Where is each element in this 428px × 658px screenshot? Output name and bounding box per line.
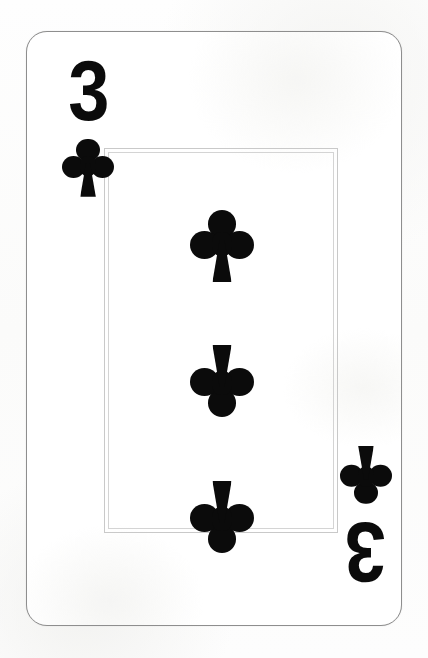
corner-rank-bottom-right: 3: [346, 518, 385, 587]
club-icon: [190, 345, 254, 417]
corner-index-top-left: 3: [53, 56, 123, 197]
club-icon: [62, 139, 114, 197]
center-pip-column: [190, 210, 254, 564]
club-icon: [340, 446, 392, 504]
center-pip-2: [190, 345, 254, 417]
corner-index-bottom-right: 3: [331, 446, 401, 587]
center-pip-3: [190, 481, 254, 553]
playing-card-three-of-clubs[interactable]: 3: [26, 31, 402, 626]
club-icon: [190, 210, 254, 282]
club-icon: [190, 481, 254, 553]
center-pip-1: [190, 210, 254, 282]
corner-rank-top-left: 3: [68, 56, 107, 125]
